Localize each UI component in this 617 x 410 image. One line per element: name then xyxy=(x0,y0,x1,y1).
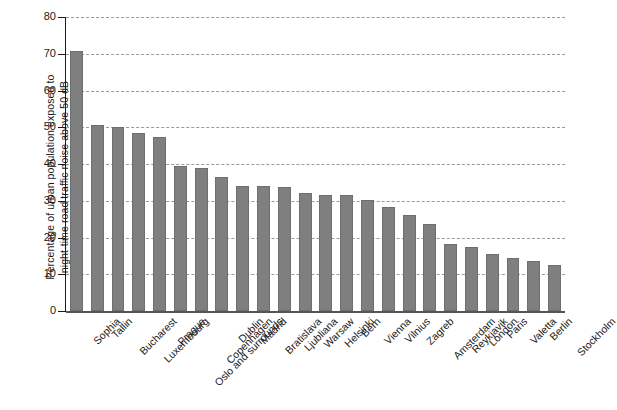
bar xyxy=(507,258,520,311)
bar xyxy=(257,186,270,311)
y-tick-mark-70 xyxy=(58,54,66,55)
y-tick-mark-20 xyxy=(58,238,66,239)
bar xyxy=(278,187,291,311)
bar xyxy=(548,265,561,311)
y-tick-label-40: 40 xyxy=(16,157,56,169)
y-tick-mark-50 xyxy=(58,127,66,128)
bar xyxy=(215,177,228,311)
bar-series xyxy=(66,17,565,311)
y-tick-label-0: 0 xyxy=(16,304,56,316)
bar xyxy=(382,207,395,311)
bar xyxy=(195,168,208,311)
bar xyxy=(153,137,166,311)
y-tick-label-70: 70 xyxy=(16,47,56,59)
x-axis-tick-labels: SophiaTallinBucharestLuxembourgPragueOsl… xyxy=(66,311,585,410)
bar xyxy=(444,244,457,311)
y-tick-label-30: 30 xyxy=(16,194,56,206)
bar xyxy=(527,261,540,311)
y-tick-label-50: 50 xyxy=(16,120,56,132)
bar xyxy=(403,215,416,311)
y-tick-label-20: 20 xyxy=(16,231,56,243)
y-tick-label-10: 10 xyxy=(16,267,56,279)
y-tick-mark-10 xyxy=(58,274,66,275)
bar xyxy=(112,127,125,311)
bar xyxy=(361,200,374,311)
y-tick-mark-80 xyxy=(58,17,66,18)
bar xyxy=(340,195,353,311)
y-axis-tick-labels: 01020304050607080 xyxy=(10,17,56,311)
bar xyxy=(132,133,145,311)
bar xyxy=(319,195,332,311)
y-tick-mark-30 xyxy=(58,201,66,202)
y-tick-mark-40 xyxy=(58,164,66,165)
bar xyxy=(236,186,249,311)
y-tick-mark-0 xyxy=(58,311,66,312)
bar xyxy=(486,254,499,311)
bar xyxy=(70,51,83,311)
bar xyxy=(423,224,436,311)
bar xyxy=(299,193,312,311)
bar xyxy=(465,247,478,311)
bar xyxy=(174,166,187,311)
y-tick-label-60: 60 xyxy=(16,84,56,96)
y-tick-label-80: 80 xyxy=(16,10,56,22)
bar xyxy=(91,125,104,311)
y-tick-mark-60 xyxy=(58,91,66,92)
x-tick-label: Stockholm xyxy=(574,315,617,358)
